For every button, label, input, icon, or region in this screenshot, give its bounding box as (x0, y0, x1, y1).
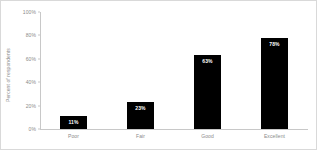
y-axis-tick-mark (38, 105, 40, 106)
bar-value-label: 63% (194, 58, 221, 64)
bar-value-label: 23% (127, 105, 154, 111)
bar[interactable]: 63% (194, 55, 221, 129)
x-axis-line (40, 129, 308, 130)
plot-area: 0%20%40%60%80%100%11%Poor23%Fair63%Good7… (40, 12, 308, 129)
y-axis-tick-label: 80% (26, 32, 36, 38)
y-axis-tick-label: 60% (26, 56, 36, 62)
bar[interactable]: 11% (60, 116, 87, 129)
bar[interactable]: 23% (127, 102, 154, 129)
x-axis-category-label: Poor (60, 133, 87, 139)
y-axis-tick-label: 100% (23, 9, 36, 15)
x-axis-category-label: Fair (127, 133, 154, 139)
y-axis-tick-mark (38, 82, 40, 83)
x-axis-category-label: Excellent (261, 133, 288, 139)
y-axis-tick-label: 20% (26, 103, 36, 109)
x-axis-category-label: Good (194, 133, 221, 139)
y-axis-tick-mark (38, 35, 40, 36)
bar-group: 63%Good (194, 12, 221, 129)
bar-group: 11%Poor (60, 12, 87, 129)
bar-value-label: 11% (60, 119, 87, 125)
y-axis-tick-mark (38, 12, 40, 13)
y-axis-tick-mark (38, 58, 40, 59)
bar-value-label: 78% (261, 41, 288, 47)
y-axis-tick-mark (38, 129, 40, 130)
y-axis-tick-label: 0% (29, 126, 36, 132)
bar[interactable]: 78% (261, 38, 288, 129)
y-axis-tick-label: 40% (26, 79, 36, 85)
bar-group: 78%Excellent (261, 12, 288, 129)
bar-chart-figure: Percent of respondents 0%20%40%60%80%100… (0, 0, 317, 150)
y-axis-title: Percent of respondents (5, 48, 11, 102)
bar-group: 23%Fair (127, 12, 154, 129)
